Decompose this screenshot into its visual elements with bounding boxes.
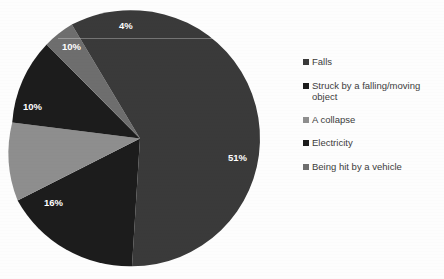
legend-label-electricity: Electricity (312, 137, 353, 149)
legend-swatch-icon (303, 117, 309, 123)
pie-plot-area: 51% 16% 10% 10% 4% (0, 0, 288, 279)
legend-item-a-collapse[interactable]: A collapse (303, 114, 444, 126)
legend-item-falls[interactable]: Falls (303, 56, 444, 68)
legend-item-being-hit-by-vehicle[interactable]: Being hit by a vehicle (303, 161, 444, 173)
pie-label-struck-by-object: 16% (44, 197, 63, 208)
pie-label-falls: 51% (228, 152, 247, 163)
pie-label-a-collapse: 10% (23, 101, 42, 112)
legend-item-struck-by-object[interactable]: Struck by a falling/moving object (303, 80, 444, 103)
legend-swatch-icon (303, 140, 309, 146)
pie-label-electricity: 10% (62, 41, 81, 52)
pie-svg (0, 0, 288, 279)
pie-slice-falls[interactable] (132, 11, 260, 267)
legend-label-being-hit-by-vehicle: Being hit by a vehicle (312, 161, 402, 173)
legend-label-struck-by-object: Struck by a falling/moving object (312, 80, 444, 103)
pie-label-being-hit-by-vehicle: 4% (119, 20, 133, 31)
legend-swatch-icon (303, 164, 309, 170)
pie-chart: 51% 16% 10% 10% 4% Falls Struck by a fal… (0, 0, 444, 279)
legend-swatch-icon (303, 59, 309, 65)
legend-item-electricity[interactable]: Electricity (303, 137, 444, 149)
legend-label-falls: Falls (312, 56, 332, 68)
legend-swatch-icon (303, 83, 309, 89)
legend-label-a-collapse: A collapse (312, 114, 355, 126)
chart-legend: Falls Struck by a falling/moving object … (303, 56, 444, 184)
